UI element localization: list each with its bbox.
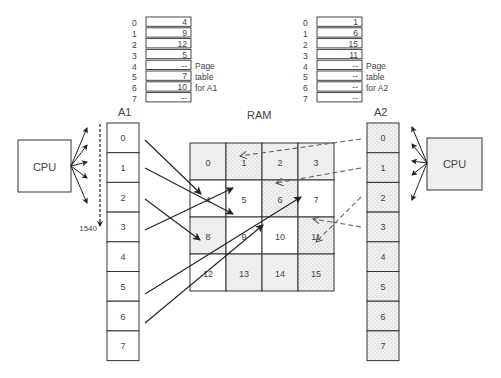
virtual-page-number: 1	[120, 163, 125, 173]
ram-frame-number: 2	[277, 158, 282, 168]
cpu-right-label: CPU	[443, 158, 466, 170]
virtual-page-number: 3	[120, 222, 125, 232]
a2-virtual-pages: 01234567	[367, 123, 399, 361]
page-table-value: --	[352, 93, 358, 103]
page-table-value: 4	[182, 17, 187, 27]
virtual-page-number: 3	[380, 222, 385, 232]
page-table-value: --	[352, 82, 358, 92]
page-table-value: 12	[178, 39, 188, 49]
page-table-caption: for A2	[366, 83, 388, 93]
page-table-index: 4	[303, 62, 308, 72]
page-table-index: 4	[132, 62, 137, 72]
page-table-value: 1	[353, 17, 358, 27]
virtual-page-number: 0	[380, 133, 385, 143]
virtual-page-number: 5	[120, 282, 125, 292]
page-table-value: 15	[349, 39, 359, 49]
ram-frame-number: 14	[275, 269, 285, 279]
ram-frame-number: 8	[205, 232, 210, 242]
page-table-index: 2	[132, 40, 137, 50]
page-table-value: --	[352, 71, 358, 81]
a1-label: A1	[118, 106, 131, 118]
page-table-caption: Page	[366, 61, 386, 71]
page-table-index: 3	[303, 51, 308, 61]
page-table-index: 0	[303, 18, 308, 28]
ram-label: RAM	[247, 109, 271, 121]
ram-frame-number: 13	[239, 269, 249, 279]
page-table-caption: table	[366, 72, 385, 82]
page-table-a2: 01162153114--5--6--7--Pagetablefor A2	[303, 17, 388, 104]
ram-frame-number: 11	[311, 232, 320, 242]
ram-frame-number: 0	[205, 158, 210, 168]
page-table-value: 10	[178, 82, 188, 92]
virtual-page-number: 6	[120, 312, 125, 322]
ram-frame-number: 7	[313, 195, 318, 205]
virtual-page-number: 2	[120, 193, 125, 203]
page-table-index: 0	[132, 18, 137, 28]
page-table-value: --	[181, 61, 187, 71]
page-table-value: --	[352, 61, 358, 71]
page-table-value: 9	[182, 28, 187, 38]
virtual-page-number: 5	[380, 282, 385, 292]
page-table-value: --	[181, 93, 187, 103]
cpu-right-arrows-icon	[412, 127, 427, 200]
page-table-index: 6	[132, 83, 137, 93]
page-table-value: 11	[349, 50, 358, 60]
ram-frames: 0123456789101112131415	[190, 143, 334, 291]
virtual-page-number: 1	[380, 163, 385, 173]
page-table-index: 5	[303, 72, 308, 82]
virtual-page-number: 0	[120, 133, 125, 143]
cpu-left-arrows-icon	[71, 128, 87, 203]
address-label: 1540	[79, 224, 97, 233]
page-table-index: 5	[132, 72, 137, 82]
virtual-page-number: 7	[380, 341, 385, 351]
page-table-index: 3	[132, 51, 137, 61]
page-table-index: 1	[132, 29, 137, 39]
ram-frame-number: 5	[241, 195, 246, 205]
a2-label: A2	[374, 106, 387, 118]
page-table-value: 7	[182, 71, 187, 81]
virtual-page-number: 4	[380, 252, 385, 262]
ram-frame-number: 1	[241, 158, 246, 168]
virtual-page-number: 2	[380, 193, 385, 203]
virtual-page-number: 4	[120, 252, 125, 262]
ram-frame-number: 10	[275, 232, 285, 242]
page-table-value: 5	[182, 50, 187, 60]
page-table-caption: for A1	[195, 83, 217, 93]
ram-frame-number: 6	[277, 195, 282, 205]
page-table-index: 6	[303, 83, 308, 93]
page-table-index: 7	[303, 94, 308, 104]
page-table-a1: 0419212354--576107--Pagetablefor A1	[132, 17, 217, 104]
page-table-index: 1	[303, 29, 308, 39]
page-table-index: 7	[132, 94, 137, 104]
page-table-index: 2	[303, 40, 308, 50]
a1-virtual-pages: 01234567	[107, 123, 139, 361]
cpu-left: CPU	[18, 128, 87, 203]
paging-diagram: 0419212354--576107--Pagetablefor A1 0116…	[0, 0, 501, 378]
virtual-page-number: 7	[120, 341, 125, 351]
cpu-left-label: CPU	[33, 161, 56, 173]
ram-frame-number: 3	[313, 158, 318, 168]
cpu-right: CPU	[412, 127, 482, 200]
page-table-caption: Page	[195, 61, 215, 71]
page-table-caption: table	[195, 72, 214, 82]
page-table-value: 6	[353, 28, 358, 38]
ram-frame-number: 15	[311, 269, 321, 279]
virtual-page-number: 6	[380, 312, 385, 322]
